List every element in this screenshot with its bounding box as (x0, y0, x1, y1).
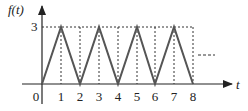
x-tick: 2 (77, 89, 84, 104)
x-axis-label: t (236, 77, 240, 92)
y-tick-3: 3 (31, 19, 38, 34)
triangle-wave-plot: f(t) t 3 0 1 2 3 4 5 6 7 8 (0, 0, 248, 111)
x-tick: 3 (96, 89, 103, 104)
x-tick: 6 (152, 89, 159, 104)
x-tick: 8 (190, 89, 197, 104)
y-axis-label: f(t) (8, 2, 24, 17)
x-tick: 4 (115, 89, 122, 104)
x-tick-labels: 0 1 2 3 4 5 6 7 8 (33, 89, 197, 104)
x-tick: 5 (134, 89, 141, 104)
x-tick: 1 (58, 89, 65, 104)
x-tick: 0 (33, 89, 40, 104)
x-tick: 7 (171, 89, 178, 104)
